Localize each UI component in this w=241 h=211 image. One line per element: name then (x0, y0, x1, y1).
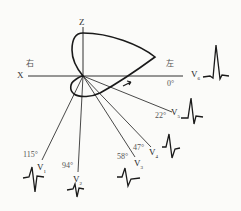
ecg-complex-v3 (117, 168, 140, 186)
ecg-complex-v2 (67, 184, 84, 197)
lead-line-v4 (83, 76, 151, 147)
angle-label-v3: 58° (117, 153, 128, 161)
x-axis-label: X (17, 71, 24, 80)
lead-label-v2: V2 (73, 175, 82, 186)
zero-angle-label: 0° (167, 80, 174, 88)
ecg-complex-v4 (162, 134, 180, 158)
lead-line-v2 (78, 76, 83, 172)
ecg-complex-v6 (203, 45, 229, 79)
angle-label-v2: 94° (62, 162, 73, 170)
lead-label-v6: V6 (191, 70, 200, 81)
lead-label-v4: V4 (149, 148, 158, 159)
angle-label-v5: 22° (155, 112, 166, 120)
vectorcardiogram-horizontal-plane (0, 0, 241, 211)
ecg-complex-v5 (181, 98, 203, 124)
lead-label-v3: V3 (134, 159, 143, 170)
left-side-label: 左 (166, 60, 174, 68)
z-axis-label: Z (79, 18, 85, 27)
angle-label-v1: 115° (23, 151, 38, 159)
lead-label-v5: V5 (171, 108, 180, 119)
right-side-label: 右 (26, 60, 34, 68)
lead-line-v1 (42, 76, 83, 160)
lead-label-v1: V1 (37, 163, 46, 174)
direction-arrow-icon (123, 81, 131, 86)
angle-label-v4: 47° (133, 144, 144, 152)
